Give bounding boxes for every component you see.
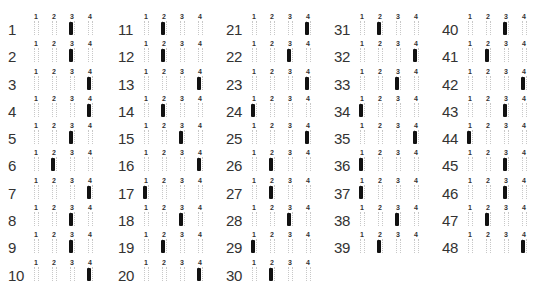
answer-bubble-option-4[interactable] bbox=[87, 212, 93, 226]
answer-bubble-option-2[interactable] bbox=[269, 212, 275, 226]
answer-bubble-option-4[interactable] bbox=[305, 212, 311, 226]
answer-bubble-option-3[interactable] bbox=[503, 130, 509, 144]
answer-bubble-option-1[interactable] bbox=[251, 48, 257, 62]
answer-bubble-option-4[interactable] bbox=[521, 157, 527, 171]
answer-bubble-option-3[interactable] bbox=[287, 103, 293, 117]
answer-bubble-option-1[interactable] bbox=[251, 239, 257, 253]
answer-bubble-option-3[interactable] bbox=[69, 103, 75, 117]
answer-bubble-option-2[interactable] bbox=[485, 21, 491, 35]
answer-bubble-option-2[interactable] bbox=[51, 103, 57, 117]
answer-bubble-option-3[interactable] bbox=[179, 185, 185, 199]
answer-bubble-option-2[interactable] bbox=[51, 239, 57, 253]
answer-bubble-option-2[interactable] bbox=[377, 212, 383, 226]
answer-bubble-option-2[interactable] bbox=[269, 185, 275, 199]
answer-bubble-option-3[interactable] bbox=[287, 267, 293, 281]
answer-bubble-option-3[interactable] bbox=[395, 185, 401, 199]
answer-bubble-option-2[interactable] bbox=[51, 130, 57, 144]
answer-bubble-option-4[interactable] bbox=[87, 76, 93, 90]
answer-bubble-option-3[interactable] bbox=[69, 130, 75, 144]
answer-bubble-option-3[interactable] bbox=[287, 239, 293, 253]
answer-bubble-option-1[interactable] bbox=[467, 157, 473, 171]
answer-bubble-option-1[interactable] bbox=[359, 76, 365, 90]
answer-bubble-option-2[interactable] bbox=[377, 185, 383, 199]
answer-bubble-option-4[interactable] bbox=[197, 212, 203, 226]
answer-bubble-option-4[interactable] bbox=[521, 185, 527, 199]
answer-bubble-option-2[interactable] bbox=[161, 103, 167, 117]
answer-bubble-option-2[interactable] bbox=[377, 239, 383, 253]
answer-bubble-option-3[interactable] bbox=[395, 130, 401, 144]
answer-bubble-option-3[interactable] bbox=[503, 21, 509, 35]
answer-bubble-option-2[interactable] bbox=[161, 239, 167, 253]
answer-bubble-option-1[interactable] bbox=[467, 76, 473, 90]
answer-bubble-option-1[interactable] bbox=[33, 21, 39, 35]
answer-bubble-option-1[interactable] bbox=[251, 103, 257, 117]
answer-bubble-option-4[interactable] bbox=[521, 21, 527, 35]
answer-bubble-option-4[interactable] bbox=[305, 130, 311, 144]
answer-bubble-option-1[interactable] bbox=[467, 212, 473, 226]
answer-bubble-option-3[interactable] bbox=[69, 212, 75, 226]
answer-bubble-option-3[interactable] bbox=[395, 239, 401, 253]
answer-bubble-option-2[interactable] bbox=[485, 76, 491, 90]
answer-bubble-option-2[interactable] bbox=[485, 157, 491, 171]
answer-bubble-option-4[interactable] bbox=[197, 157, 203, 171]
answer-bubble-option-2[interactable] bbox=[377, 76, 383, 90]
answer-bubble-option-1[interactable] bbox=[251, 267, 257, 281]
answer-bubble-option-3[interactable] bbox=[179, 21, 185, 35]
answer-bubble-option-4[interactable] bbox=[413, 185, 419, 199]
answer-bubble-option-4[interactable] bbox=[413, 48, 419, 62]
answer-bubble-option-1[interactable] bbox=[33, 267, 39, 281]
answer-bubble-option-2[interactable] bbox=[269, 130, 275, 144]
answer-bubble-option-1[interactable] bbox=[33, 157, 39, 171]
answer-bubble-option-1[interactable] bbox=[33, 130, 39, 144]
answer-bubble-option-3[interactable] bbox=[503, 239, 509, 253]
answer-bubble-option-3[interactable] bbox=[179, 239, 185, 253]
answer-bubble-option-4[interactable] bbox=[197, 48, 203, 62]
answer-bubble-option-4[interactable] bbox=[413, 130, 419, 144]
answer-bubble-option-3[interactable] bbox=[287, 48, 293, 62]
answer-bubble-option-1[interactable] bbox=[359, 185, 365, 199]
answer-bubble-option-2[interactable] bbox=[51, 21, 57, 35]
answer-bubble-option-1[interactable] bbox=[143, 48, 149, 62]
answer-bubble-option-4[interactable] bbox=[197, 76, 203, 90]
answer-bubble-option-2[interactable] bbox=[485, 212, 491, 226]
answer-bubble-option-2[interactable] bbox=[269, 267, 275, 281]
answer-bubble-option-2[interactable] bbox=[51, 267, 57, 281]
answer-bubble-option-1[interactable] bbox=[143, 103, 149, 117]
answer-bubble-option-2[interactable] bbox=[377, 157, 383, 171]
answer-bubble-option-2[interactable] bbox=[51, 185, 57, 199]
answer-bubble-option-4[interactable] bbox=[87, 157, 93, 171]
answer-bubble-option-3[interactable] bbox=[287, 157, 293, 171]
answer-bubble-option-2[interactable] bbox=[161, 212, 167, 226]
answer-bubble-option-1[interactable] bbox=[143, 267, 149, 281]
answer-bubble-option-1[interactable] bbox=[359, 21, 365, 35]
answer-bubble-option-1[interactable] bbox=[143, 130, 149, 144]
answer-bubble-option-1[interactable] bbox=[143, 185, 149, 199]
answer-bubble-option-4[interactable] bbox=[413, 76, 419, 90]
answer-bubble-option-3[interactable] bbox=[287, 21, 293, 35]
answer-bubble-option-1[interactable] bbox=[467, 130, 473, 144]
answer-bubble-option-3[interactable] bbox=[287, 130, 293, 144]
answer-bubble-option-1[interactable] bbox=[33, 212, 39, 226]
answer-bubble-option-4[interactable] bbox=[87, 185, 93, 199]
answer-bubble-option-4[interactable] bbox=[87, 239, 93, 253]
answer-bubble-option-2[interactable] bbox=[269, 48, 275, 62]
answer-bubble-option-1[interactable] bbox=[251, 130, 257, 144]
answer-bubble-option-4[interactable] bbox=[521, 212, 527, 226]
answer-bubble-option-3[interactable] bbox=[503, 48, 509, 62]
answer-bubble-option-4[interactable] bbox=[305, 157, 311, 171]
answer-bubble-option-1[interactable] bbox=[33, 48, 39, 62]
answer-bubble-option-3[interactable] bbox=[179, 48, 185, 62]
answer-bubble-option-3[interactable] bbox=[395, 212, 401, 226]
answer-bubble-option-3[interactable] bbox=[395, 103, 401, 117]
answer-bubble-option-3[interactable] bbox=[287, 76, 293, 90]
answer-bubble-option-4[interactable] bbox=[87, 130, 93, 144]
answer-bubble-option-4[interactable] bbox=[87, 267, 93, 281]
answer-bubble-option-4[interactable] bbox=[197, 185, 203, 199]
answer-bubble-option-4[interactable] bbox=[197, 239, 203, 253]
answer-bubble-option-1[interactable] bbox=[359, 157, 365, 171]
answer-bubble-option-1[interactable] bbox=[251, 185, 257, 199]
answer-bubble-option-1[interactable] bbox=[467, 21, 473, 35]
answer-bubble-option-4[interactable] bbox=[305, 185, 311, 199]
answer-bubble-option-2[interactable] bbox=[377, 130, 383, 144]
answer-bubble-option-2[interactable] bbox=[485, 130, 491, 144]
